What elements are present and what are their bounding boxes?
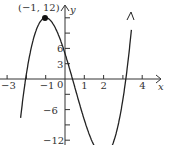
x-tick-label: 1: [81, 80, 87, 91]
x-tick-label: −1: [40, 80, 55, 91]
x-tick-label: 2: [101, 80, 107, 91]
y-axis-label: y: [69, 4, 76, 15]
origin-label: 0: [57, 79, 63, 90]
y-tick-label: −12: [43, 135, 64, 145]
cubic-graph: −3−112463−6−12 (−1, 12) x y 0: [0, 0, 171, 145]
local-max-point: [42, 15, 48, 21]
x-tick-label: −3: [1, 80, 16, 91]
point-label: (−1, 12): [18, 2, 60, 13]
function-curve: [21, 18, 132, 145]
y-tick-label: 3: [57, 59, 63, 70]
y-tick-label: −6: [43, 105, 58, 116]
x-axis-label: x: [158, 81, 164, 92]
x-tick-label: 4: [139, 80, 145, 91]
curve-arrow-icon: [127, 12, 134, 20]
